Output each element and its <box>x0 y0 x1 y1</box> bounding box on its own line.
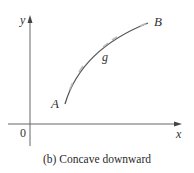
point-a-label: A <box>51 97 59 110</box>
concave-downward-figure: y x 0 A B g (b) Concave downward <box>0 0 194 173</box>
curve-name-label: g <box>102 51 108 63</box>
graph-canvas <box>0 0 194 173</box>
y-axis-arrow-icon <box>28 15 33 23</box>
y-axis-label: y <box>20 14 25 26</box>
origin-label: 0 <box>20 127 26 139</box>
x-axis-label: x <box>176 128 181 140</box>
figure-caption: (b) Concave downward <box>0 154 194 166</box>
point-b-label: B <box>154 15 162 28</box>
x-axis-arrow-icon <box>174 122 182 127</box>
